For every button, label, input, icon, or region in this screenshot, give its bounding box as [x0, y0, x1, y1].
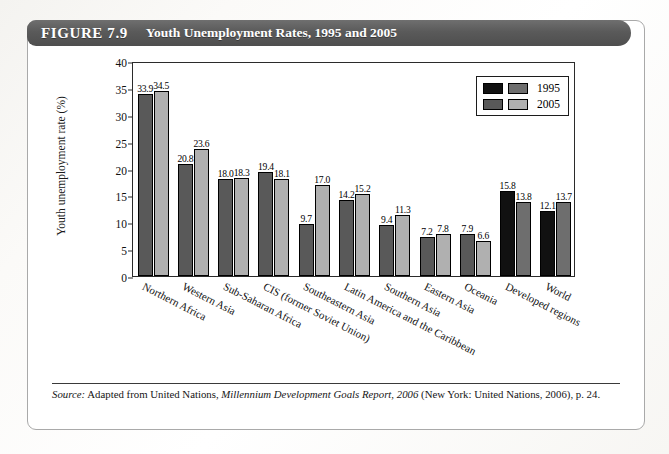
y-tick-label: 5 — [121, 245, 127, 257]
bar-value-label: 13.7 — [556, 191, 572, 202]
bar-1995: 9.7 — [299, 224, 314, 276]
bar-value-label: 9.7 — [301, 213, 312, 224]
y-axis-label: Youth unemployment rate (%) — [55, 76, 67, 256]
bar-value-label: 7.9 — [462, 223, 473, 234]
bar-value-label: 17.0 — [314, 174, 330, 185]
bar-value-label: 7.8 — [437, 223, 448, 234]
bar-group: 19.418.1 — [254, 63, 294, 276]
source-publication-title: Millennium Development Goals Report, 200… — [221, 388, 418, 400]
legend-item-1995: 1995 — [483, 82, 560, 94]
bar-1995: 14.2 — [339, 200, 354, 276]
bar-1995: 7.9 — [460, 234, 475, 276]
legend-swatch-1995-a — [483, 83, 503, 94]
bar-value-label: 19.4 — [258, 161, 274, 172]
bar-2005: 6.6 — [476, 241, 491, 276]
bar-2005: 18.3 — [234, 178, 249, 276]
bar-value-label: 34.5 — [153, 80, 169, 91]
chart-area: Youth unemployment rate (%) 051015202530… — [28, 48, 644, 378]
bar-2005: 13.8 — [516, 202, 531, 276]
bar-value-label: 11.3 — [395, 204, 411, 215]
legend-item-2005: 2005 — [483, 98, 560, 110]
bar-value-label: 15.8 — [500, 180, 516, 191]
bar-1995: 19.4 — [258, 172, 273, 276]
figure-number: FIGURE 7.9 — [41, 25, 128, 42]
bar-group: 9.411.3 — [375, 63, 415, 276]
bar-value-label: 20.8 — [177, 153, 193, 164]
y-tick-label: 10 — [116, 218, 128, 230]
x-axis-labels: Northern AfricaWestern AsiaSub-Saharan A… — [132, 280, 575, 376]
y-tick-label: 20 — [116, 165, 128, 177]
bar-2005: 18.1 — [274, 179, 289, 276]
y-tick-label: 40 — [116, 57, 128, 69]
bar-value-label: 15.2 — [354, 183, 370, 194]
y-tick-label: 30 — [116, 111, 128, 123]
bar-group: 9.717.0 — [294, 63, 334, 276]
bar-2005: 17.0 — [315, 185, 330, 276]
x-axis-label: Developed regions — [503, 280, 582, 328]
bar-value-label: 33.9 — [137, 83, 153, 94]
source-text-2: (New York: United Nations, 2006), p. 24. — [418, 388, 600, 400]
bar-group: 14.215.2 — [334, 63, 374, 276]
source-label: Source: — [52, 388, 85, 400]
bar-group: 7.27.8 — [415, 63, 455, 276]
bar-2005: 34.5 — [154, 91, 169, 276]
bar-value-label: 18.3 — [234, 167, 250, 178]
legend-swatch-1995-b — [508, 83, 528, 94]
bar-value-label: 23.6 — [193, 138, 209, 149]
chart-legend: 1995 2005 — [476, 76, 569, 116]
bar-2005: 13.7 — [556, 202, 571, 276]
bar-2005: 15.2 — [355, 194, 370, 276]
source-text-1: Adapted from United Nations, — [85, 388, 221, 400]
bar-group: 20.823.6 — [173, 63, 213, 276]
y-tick-mark — [128, 278, 133, 279]
bar-value-label: 12.1 — [540, 200, 556, 211]
figure-title: Youth Unemployment Rates, 1995 and 2005 — [146, 25, 397, 41]
bar-value-label: 7.2 — [421, 226, 432, 237]
bar-value-label: 9.4 — [381, 214, 392, 225]
source-note: Source: Adapted from United Nations, Mil… — [52, 388, 628, 402]
legend-swatch-2005-a — [483, 99, 503, 110]
legend-swatch-2005-b — [508, 99, 528, 110]
bar-2005: 11.3 — [395, 215, 410, 276]
bar-value-label: 14.2 — [338, 189, 354, 200]
y-tick-label: 0 — [121, 272, 127, 284]
bar-group: 33.934.5 — [133, 63, 173, 276]
bar-1995: 9.4 — [379, 225, 394, 276]
bar-value-label: 18.1 — [274, 168, 290, 179]
bar-1995: 12.1 — [540, 211, 555, 276]
bar-value-label: 13.8 — [516, 191, 532, 202]
figure-title-banner: FIGURE 7.9 Youth Unemployment Rates, 199… — [27, 20, 631, 46]
source-divider — [52, 383, 620, 384]
plot-frame: 0510152025303540 33.934.520.823.618.018.… — [132, 62, 575, 277]
bar-1995: 15.8 — [500, 191, 515, 276]
bar-2005: 7.8 — [436, 234, 451, 276]
bar-1995: 18.0 — [218, 179, 233, 276]
bar-1995: 20.8 — [178, 164, 193, 276]
bar-1995: 33.9 — [138, 94, 153, 276]
legend-label-1995: 1995 — [537, 82, 560, 94]
bar-2005: 23.6 — [194, 149, 209, 276]
legend-label-2005: 2005 — [537, 98, 560, 110]
bar-value-label: 18.0 — [218, 168, 234, 179]
y-tick-label: 15 — [116, 191, 128, 203]
y-tick-label: 25 — [116, 138, 128, 150]
bar-group: 18.018.3 — [214, 63, 254, 276]
bar-1995: 7.2 — [420, 237, 435, 276]
bar-value-label: 6.6 — [478, 230, 489, 241]
y-tick-label: 35 — [116, 84, 128, 96]
